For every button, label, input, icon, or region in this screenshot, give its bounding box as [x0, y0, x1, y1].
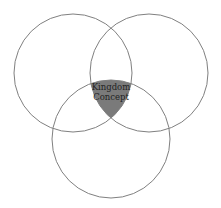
- center-label-line2: Concept: [93, 92, 129, 102]
- center-label-line1: Kingdom: [92, 82, 131, 92]
- venn-diagram: Kingdom Concept: [0, 0, 221, 208]
